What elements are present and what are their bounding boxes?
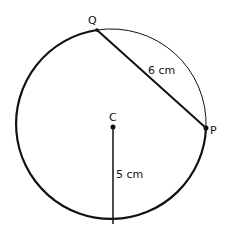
point-q-dot — [95, 28, 99, 32]
point-c-dot — [111, 125, 116, 130]
label-radius-length: 5 cm — [116, 168, 143, 181]
point-p-dot — [204, 126, 209, 131]
label-c: C — [109, 111, 117, 124]
circle-diagram: Q P C 6 cm 5 cm — [0, 0, 229, 239]
label-p: P — [210, 124, 217, 137]
label-q: Q — [88, 14, 97, 27]
circle-major-arc — [16, 30, 206, 219]
label-chord-length: 6 cm — [148, 64, 175, 77]
